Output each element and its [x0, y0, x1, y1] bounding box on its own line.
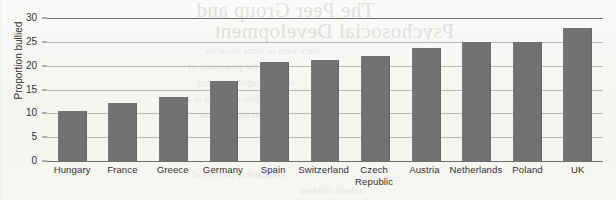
x-axis-label-greece: Greece	[148, 164, 198, 187]
x-axis-label-uk: UK	[553, 164, 603, 187]
x-axis-label-line: Spain	[261, 164, 286, 175]
x-axis-label-line: Netherlands	[450, 164, 503, 175]
x-axis-label-poland: Poland	[502, 164, 552, 187]
x-axis-label-line: Greece	[157, 164, 189, 175]
bar-netherlands	[462, 42, 491, 161]
bar-czech-republic	[361, 56, 390, 161]
bar-chart: The Peer Group and Psychosocial Developm…	[0, 0, 616, 200]
x-axis-label-line: Republic	[349, 176, 399, 188]
x-axis-label-line: France	[107, 164, 137, 175]
x-axis-label-line: Switzerland	[298, 164, 349, 175]
bar-hungary	[58, 111, 87, 161]
bar-spain	[260, 62, 289, 161]
y-tick-label-15: 15	[7, 85, 37, 95]
bar-slot	[199, 18, 250, 161]
bar-slot	[249, 18, 300, 161]
bleed-through-body-line7: school children	[300, 186, 363, 196]
x-axis-labels: HungaryFranceGreeceGermanySpainSwitzerla…	[47, 164, 603, 187]
gridline-0	[47, 161, 603, 162]
y-tick-label-20: 20	[7, 61, 37, 71]
x-axis-label-france: France	[97, 164, 147, 187]
bar-austria	[412, 48, 441, 161]
plot-area: 051015202530	[47, 18, 603, 161]
bar-greece	[159, 97, 188, 161]
x-axis-label-line: Poland	[512, 164, 542, 175]
y-tick-label-25: 25	[7, 37, 37, 47]
x-axis-label-switzerland: Switzerland	[298, 164, 349, 187]
bar-slot	[148, 18, 199, 161]
bar-slot	[502, 18, 553, 161]
x-axis-label-line: Austria	[409, 164, 440, 175]
bar-france	[108, 103, 137, 161]
bar-uk	[563, 28, 592, 161]
bar-slot	[451, 18, 502, 161]
x-axis-label-hungary: Hungary	[47, 164, 97, 187]
bar-slot	[552, 18, 603, 161]
bar-slot	[47, 18, 98, 161]
x-axis-label-line: Hungary	[54, 164, 91, 175]
bar-slot	[401, 18, 452, 161]
x-axis-label-line: UK	[571, 164, 585, 175]
bar-series	[47, 18, 603, 161]
bar-slot	[300, 18, 351, 161]
y-tick-label-5: 5	[7, 132, 37, 142]
y-tick-label-10: 10	[7, 108, 37, 118]
bar-germany	[210, 81, 239, 161]
x-axis-label-line: Germany	[203, 164, 243, 175]
bar-slot	[98, 18, 149, 161]
y-tick-label-30: 30	[7, 13, 37, 23]
x-axis-label-spain: Spain	[248, 164, 298, 187]
x-axis-label-netherlands: Netherlands	[450, 164, 503, 187]
bar-switzerland	[311, 60, 340, 161]
x-axis-label-germany: Germany	[198, 164, 248, 187]
x-axis-label-line: Czech	[360, 164, 388, 175]
x-axis-label-austria: Austria	[399, 164, 449, 187]
bar-poland	[513, 42, 542, 161]
x-axis-label-czech-republic: CzechRepublic	[349, 164, 399, 187]
y-tick-label-0: 0	[7, 156, 37, 166]
bar-slot	[350, 18, 401, 161]
